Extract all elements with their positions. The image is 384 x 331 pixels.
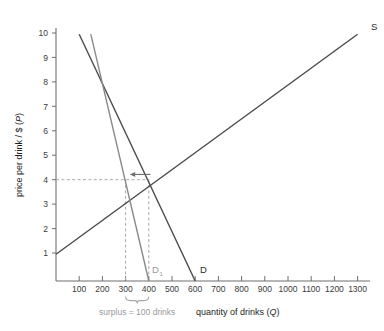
demand-shifted-subscript: 1 [160, 271, 164, 277]
x-tick-label: 200 [95, 284, 109, 294]
x-axis-title-text: quantity of drinks ( [196, 307, 270, 317]
y-tick-label: 10 [39, 28, 49, 38]
x-tick-label: 100 [72, 284, 86, 294]
x-tick-label: 1300 [348, 284, 367, 294]
y-axis-title-close: ) [14, 113, 24, 116]
x-tick-label: 800 [235, 284, 249, 294]
axes [56, 28, 370, 281]
guide-lines [56, 180, 149, 281]
y-tick-label: 8 [43, 77, 48, 87]
y-tick-label: 1 [43, 248, 48, 258]
x-tick-label: 1200 [325, 284, 344, 294]
supply-curve-label: S [371, 21, 377, 32]
surplus-brace [126, 297, 149, 304]
y-tick-label: 9 [43, 53, 48, 63]
y-axis-tick-labels: 10 9 8 7 6 5 4 3 2 1 [39, 28, 49, 258]
x-tick-label: 700 [211, 284, 225, 294]
x-axis-title: quantity of drinks (Q) [196, 307, 280, 317]
curve-demand-shifted [91, 34, 149, 281]
y-tick-label: 4 [43, 175, 48, 185]
curve-supply [56, 34, 358, 254]
x-tick-label: 900 [258, 284, 272, 294]
svg-text:price per drink / $ (P): price per drink / $ (P) [14, 113, 24, 197]
y-tick-label: 5 [43, 150, 48, 160]
x-tick-label: 600 [188, 284, 202, 294]
x-axis-title-close: ) [277, 307, 280, 317]
y-tick-label: 6 [43, 126, 48, 136]
demand-curve-label: D [200, 264, 207, 275]
y-tick-label: 2 [43, 224, 48, 234]
svg-text:quantity of drinks (Q): quantity of drinks (Q) [196, 307, 280, 317]
y-axis-title: price per drink / $ (P) [14, 113, 24, 197]
x-axis-ticks [79, 276, 357, 281]
shift-arrow [130, 172, 151, 177]
y-axis-title-text: price per drink / $ ( [14, 122, 24, 197]
y-axis-ticks [52, 33, 56, 253]
chart-figure: 10 9 8 7 6 5 4 3 2 1 100 200 300 400 500… [0, 0, 384, 331]
demand-shifted-curve-label: D [152, 264, 159, 275]
curve-label-demand: D [200, 264, 207, 275]
surplus-note: surplus = 100 drinks [99, 307, 175, 317]
x-tick-label: 1000 [279, 284, 298, 294]
x-tick-label: 500 [165, 284, 179, 294]
curve-label-demand-shifted: D 1 [152, 264, 164, 277]
y-tick-label: 3 [43, 199, 48, 209]
x-axis-title-var: Q [270, 307, 277, 317]
x-tick-label: 1100 [302, 284, 321, 294]
x-axis-tick-labels: 100 200 300 400 500 600 700 800 900 1000… [72, 284, 367, 294]
curve-label-supply: S [371, 21, 377, 32]
x-tick-label: 400 [142, 284, 156, 294]
supply-demand-chart: 10 9 8 7 6 5 4 3 2 1 100 200 300 400 500… [0, 0, 384, 331]
x-tick-label: 300 [119, 284, 133, 294]
curve-demand [79, 34, 195, 281]
y-tick-label: 7 [43, 102, 48, 112]
